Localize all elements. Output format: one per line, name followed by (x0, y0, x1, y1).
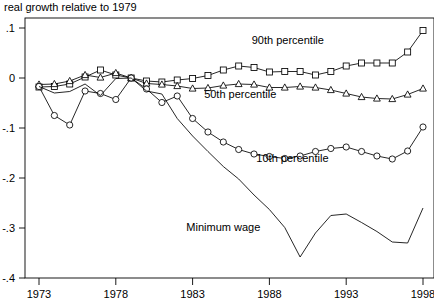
marker-circle (159, 99, 165, 105)
marker-circle (220, 139, 226, 145)
x-tick-label: 1988 (257, 288, 281, 300)
series-minimum-wage: Minimum wage (39, 78, 423, 257)
y-tick-label: -.3 (2, 222, 15, 234)
marker-square (359, 60, 365, 66)
marker-circle (374, 153, 380, 159)
y-tick-label: -.2 (2, 172, 15, 184)
marker-square (297, 69, 303, 75)
marker-circle (236, 146, 242, 152)
marker-circle (113, 96, 119, 102)
marker-circle (67, 122, 73, 128)
x-axis: 197319781983198819931998 (27, 278, 434, 300)
x-tick-label: 1983 (180, 288, 204, 300)
marker-square (236, 63, 242, 69)
plot-frame (25, 18, 434, 278)
marker-circle (343, 144, 349, 150)
marker-square (389, 60, 395, 66)
marker-square (405, 49, 411, 55)
marker-square (97, 67, 103, 73)
marker-triangle (297, 83, 304, 89)
marker-circle (174, 93, 180, 99)
marker-square (420, 28, 426, 34)
y-tick-label: .1 (6, 22, 15, 34)
y-tick-label: -.4 (2, 272, 15, 284)
series-90th-percentile: 90th percentile (36, 28, 426, 91)
marker-square (251, 65, 257, 71)
marker-square (266, 69, 272, 75)
series-label-90th-percentile: 90th percentile (252, 34, 324, 46)
marker-circle (420, 124, 426, 130)
series-50th-percentile: 50th percentile (36, 69, 427, 101)
chart-container: real growth relative to 1979.10-.1-.2-.3… (0, 0, 434, 300)
marker-square (220, 67, 226, 73)
marker-circle (205, 129, 211, 135)
marker-square (190, 76, 196, 82)
marker-circle (82, 88, 88, 94)
y-tick-label: -.1 (2, 122, 15, 134)
series-label-10th-percentile: 10th percentile (256, 152, 328, 164)
marker-circle (405, 148, 411, 154)
marker-circle (51, 112, 57, 118)
x-tick-label: 1993 (334, 288, 358, 300)
growth-line-chart: real growth relative to 1979.10-.1-.2-.3… (0, 0, 434, 300)
marker-circle (328, 145, 334, 151)
marker-square (328, 69, 334, 75)
marker-square (374, 60, 380, 66)
marker-square (205, 73, 211, 79)
marker-triangle (420, 85, 427, 91)
chart-title: real growth relative to 1979 (4, 1, 137, 13)
series-label-50th-percentile: 50th percentile (204, 88, 276, 100)
series-label-minimum-wage: Minimum wage (186, 221, 260, 233)
marker-square (312, 72, 318, 78)
marker-square (343, 63, 349, 69)
marker-square (282, 69, 288, 75)
x-tick-label: 1973 (27, 288, 51, 300)
x-tick-label: 1978 (104, 288, 128, 300)
x-tick-label: 1998 (411, 288, 434, 300)
marker-triangle (235, 80, 242, 86)
y-tick-label: 0 (9, 72, 15, 84)
y-axis: .10-.1-.2-.3-.4 (2, 22, 25, 284)
marker-circle (190, 115, 196, 121)
marker-circle (358, 148, 364, 154)
marker-circle (389, 156, 395, 162)
series-line (39, 31, 423, 88)
